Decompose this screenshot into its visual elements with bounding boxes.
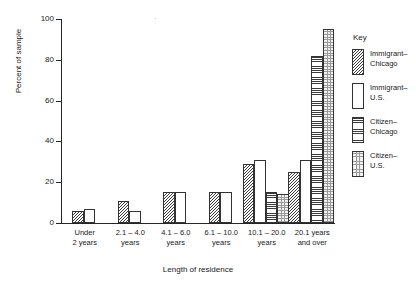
legend: Key Immigrant– Chicago Immigrant– U.S. C…: [352, 33, 416, 185]
bar[interactable]: [311, 56, 323, 223]
legend-item-citizen-chicago[interactable]: Citizen– Chicago: [352, 117, 416, 143]
x-tick-labels: Under2 years2.1 – 4.0years4.1 – 6.0years…: [62, 228, 335, 260]
x-tick-label-line: 20.1 years: [284, 228, 342, 238]
y-tick-mark: [56, 19, 61, 20]
legend-label: Immigrant– U.S.: [370, 83, 408, 102]
y-tick-mark: [56, 60, 61, 61]
bar[interactable]: [175, 192, 187, 223]
y-axis-title: Percent of sample: [14, 1, 23, 121]
y-tick-mark: [56, 101, 61, 102]
bar[interactable]: [84, 209, 96, 223]
bar[interactable]: [163, 192, 175, 223]
bar[interactable]: [277, 194, 289, 223]
y-tick-label: 60: [45, 97, 54, 105]
legend-title: Key: [353, 33, 416, 42]
bar-group: [244, 19, 290, 223]
legend-item-immigrant-chicago[interactable]: Immigrant– Chicago: [352, 49, 416, 75]
x-axis-line: [61, 223, 335, 224]
y-tick-label: 100: [41, 15, 54, 23]
bars-layer: [62, 19, 335, 223]
bar[interactable]: [266, 192, 278, 223]
y-tick-mark: [56, 141, 61, 142]
legend-swatch-stipple-dots-icon: [352, 151, 364, 177]
y-tick-label: 40: [45, 137, 54, 145]
bar-group: [199, 19, 245, 223]
x-tick-label-line: and over: [284, 238, 342, 248]
y-tick-mark: [56, 223, 61, 224]
legend-swatch-diagonal-hatch-icon: [352, 49, 364, 75]
bar-group: [108, 19, 154, 223]
plot-area: 0 20 40 60 80 100: [61, 19, 335, 224]
bar-group: [62, 19, 108, 223]
legend-item-citizen-us[interactable]: Citizen– U.S.: [352, 151, 416, 177]
bar[interactable]: [243, 164, 255, 223]
legend-label: Citizen– Chicago: [370, 117, 398, 136]
legend-item-immigrant-us[interactable]: Immigrant– U.S.: [352, 83, 416, 109]
bar-group: [153, 19, 199, 223]
y-tick-label: 0: [50, 219, 54, 227]
y-tick-label: 80: [45, 56, 54, 64]
chart-figure: Percent of sample 0 20 40 60 80 100: [0, 0, 416, 288]
legend-swatch-white-solid-icon: [352, 83, 364, 109]
y-tick-mark: [56, 182, 61, 183]
bar[interactable]: [288, 172, 300, 223]
legend-label: Immigrant– Chicago: [370, 49, 408, 68]
bar[interactable]: [209, 192, 221, 223]
legend-swatch-horizontal-lines-icon: [352, 117, 364, 143]
legend-label: Citizen– U.S.: [370, 151, 397, 170]
bar[interactable]: [72, 211, 84, 223]
bar[interactable]: [300, 160, 312, 223]
bar-group: [290, 19, 336, 223]
bar[interactable]: [323, 29, 335, 223]
bar[interactable]: [118, 201, 130, 223]
bar[interactable]: [220, 192, 232, 223]
bar[interactable]: [129, 211, 141, 223]
x-tick-label: 20.1 yearsand over: [284, 228, 342, 248]
bar[interactable]: [254, 160, 266, 223]
x-axis-title: Length of residence: [61, 265, 335, 274]
y-tick-label: 20: [45, 178, 54, 186]
